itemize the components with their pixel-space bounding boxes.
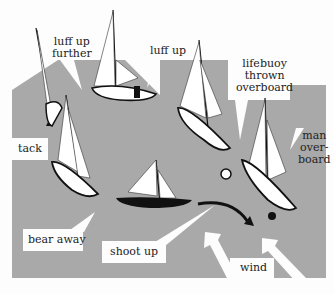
label-luff-up: luff up bbox=[150, 45, 186, 57]
label-lifebuoy: lifebuoy thrown overboard bbox=[236, 58, 293, 94]
label-luff-up-further-line2: further bbox=[52, 48, 92, 60]
label-shoot-up: shoot up bbox=[110, 246, 158, 258]
sailing-manoeuvre-diagram: luff up further luff up lifebuoy thrown … bbox=[0, 0, 334, 294]
lifebuoy-icon bbox=[221, 169, 231, 179]
label-man-overboard-line3: board bbox=[298, 154, 331, 166]
man-overboard-icon bbox=[268, 212, 276, 220]
label-lifebuoy-line3: overboard bbox=[236, 82, 293, 94]
label-luff-up-further: luff up further bbox=[52, 36, 92, 60]
label-tack: tack bbox=[18, 143, 42, 155]
label-bear-away: bear away bbox=[28, 234, 86, 246]
label-man-overboard: man over- board bbox=[298, 130, 331, 166]
label-wind: wind bbox=[240, 262, 267, 274]
